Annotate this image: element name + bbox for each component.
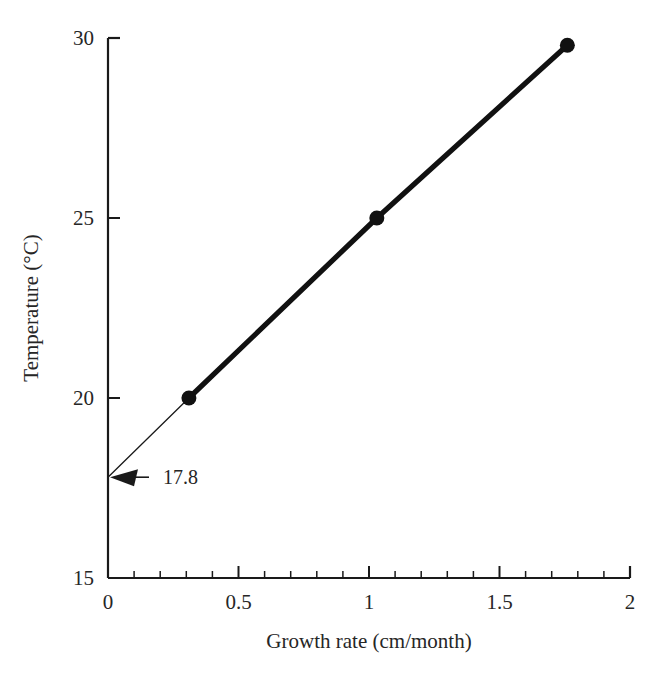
y-tick-label: 20 (73, 386, 94, 410)
chart-canvas: 00.511.52 15202530 17.8 Growth rate (cm/… (0, 0, 667, 679)
chart-figure: 00.511.52 15202530 17.8 Growth rate (cm/… (0, 0, 667, 679)
y-tick-label: 15 (73, 566, 94, 590)
x-tick-label: 1 (364, 590, 375, 614)
x-tick-label: 1.5 (486, 590, 512, 614)
x-tick-label: 0 (103, 590, 114, 614)
data-point (369, 211, 384, 226)
x-tick-label: 0.5 (225, 590, 251, 614)
data-point (181, 391, 196, 406)
x-axis-title: Growth rate (cm/month) (266, 629, 471, 653)
x-tick-label: 2 (625, 590, 636, 614)
intercept-value-label: 17.8 (163, 466, 198, 488)
y-tick-label: 25 (73, 206, 94, 230)
y-tick-label: 30 (73, 26, 94, 50)
data-point (560, 38, 575, 53)
y-axis-title: Temperature (°C) (19, 234, 43, 381)
